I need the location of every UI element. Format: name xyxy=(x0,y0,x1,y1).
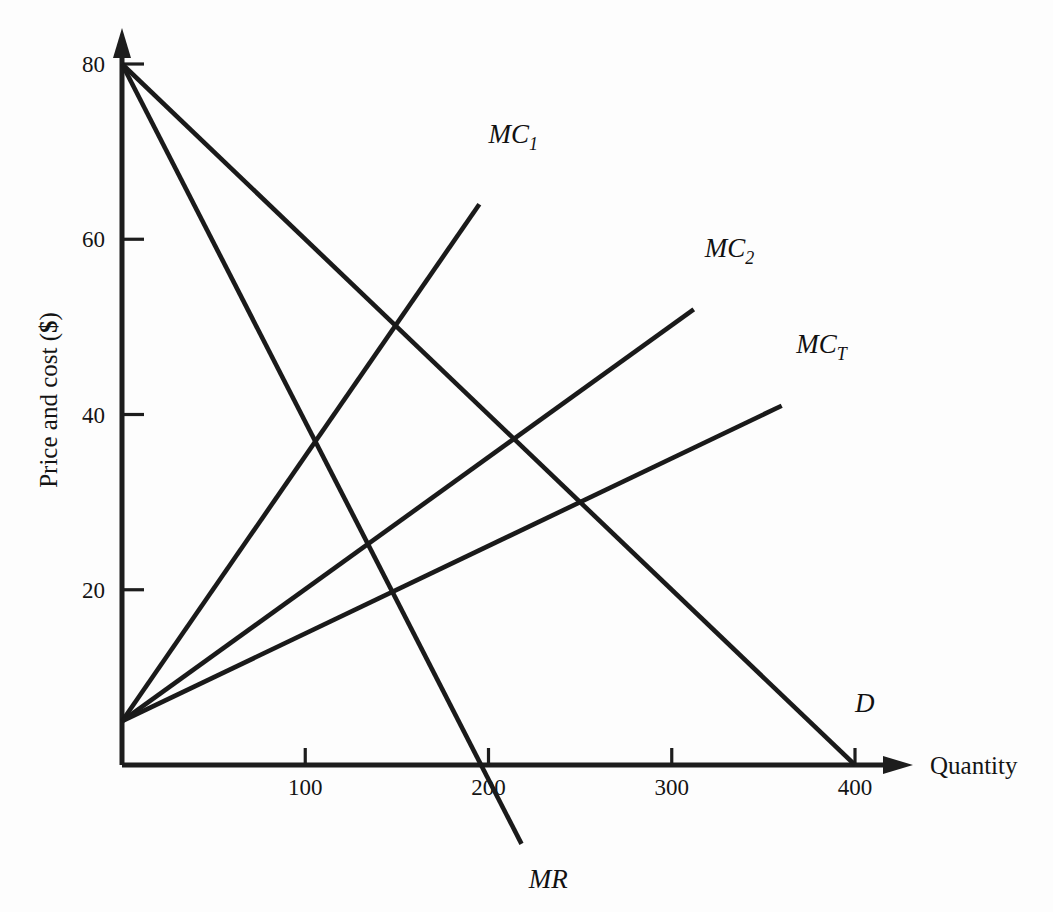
x-tick-label-400: 400 xyxy=(838,775,873,800)
curve-label-MC2: MC2 xyxy=(704,233,755,268)
curve-label-D: D xyxy=(854,688,875,718)
curve-MR xyxy=(122,64,521,844)
y-tick-label-40: 40 xyxy=(82,403,105,428)
x-tick-label-300: 300 xyxy=(655,775,690,800)
y-axis-title-currency: $ xyxy=(35,321,62,334)
y-axis-arrowhead xyxy=(113,28,131,58)
curve-label-MR: MR xyxy=(528,864,568,894)
y-tick-label-20: 20 xyxy=(82,578,105,603)
curve-label-sub-MC2: 2 xyxy=(745,248,754,268)
chart-figure: 100200300400 20406080 DMRMC1MC2MCT Quant… xyxy=(0,0,1053,912)
y-axis-title-close: ) xyxy=(35,312,63,320)
x-axis-title: Quantity xyxy=(930,752,1018,779)
monopoly-multiplant-chart: 100200300400 20406080 DMRMC1MC2MCT Quant… xyxy=(0,0,1053,912)
curve-D xyxy=(122,64,855,765)
y-axis-title-text: Price and cost ( xyxy=(35,333,63,488)
x-axis-arrowhead xyxy=(883,756,913,774)
curve-label-base-MCT: MC xyxy=(795,329,837,359)
curve-label-MC1: MC1 xyxy=(488,119,539,154)
y-axis-ticks xyxy=(122,64,144,590)
curve-MC1 xyxy=(122,204,479,721)
curve-label-base-MC2: MC xyxy=(704,233,746,263)
curve-label-MCT: MCT xyxy=(795,329,849,364)
y-tick-label-80: 80 xyxy=(82,52,105,77)
y-axis-tick-labels: 20406080 xyxy=(82,52,105,603)
x-tick-label-100: 100 xyxy=(288,775,323,800)
x-axis-tick-labels: 100200300400 xyxy=(288,775,872,800)
data-curves xyxy=(122,64,855,844)
curve-label-base-D: D xyxy=(854,688,875,718)
curve-label-sub-MC1: 1 xyxy=(529,134,538,154)
curve-label-base-MR: MR xyxy=(528,864,568,894)
curve-label-base-MC1: MC xyxy=(488,119,530,149)
x-axis-ticks xyxy=(305,748,855,765)
curve-MCT xyxy=(122,406,782,721)
curve-MC2 xyxy=(122,309,694,721)
curve-label-sub-MCT: T xyxy=(837,344,849,364)
y-tick-label-60: 60 xyxy=(82,227,105,252)
y-axis-title: Price and cost ($) xyxy=(35,312,63,488)
